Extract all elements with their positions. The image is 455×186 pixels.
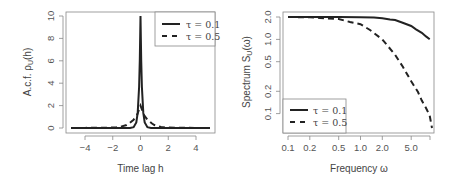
x-axis-label: Time lag h bbox=[117, 163, 163, 174]
x-axis bbox=[288, 136, 430, 140]
y-tick-label: 0.1 bbox=[262, 107, 273, 120]
y-tick-label: 6 bbox=[45, 58, 56, 63]
legend: τ = 0.1 τ = 0.5 bbox=[283, 99, 347, 133]
y-tick-label: 1.0 bbox=[262, 33, 273, 46]
y-tick-label: 2.0 bbox=[262, 10, 273, 23]
series-tau-0.1 bbox=[288, 17, 430, 39]
acf-plot: 0 2 4 6 8 10 A.c.f. ρU(h) −4 −2 0 2 4 Ti… bbox=[22, 11, 220, 174]
legend-label: τ = 0.1 bbox=[186, 19, 220, 30]
y-axis bbox=[59, 16, 63, 128]
y-tick-label: 10 bbox=[45, 11, 56, 22]
x-tick-label: 0.1 bbox=[281, 142, 294, 153]
x-tick-labels: 0.1 0.2 0.5 1.0 2.0 5.0 bbox=[281, 142, 417, 153]
y-tick-label: 8 bbox=[45, 36, 56, 41]
x-tick-label: −2 bbox=[107, 142, 118, 153]
x-tick-label: 2.0 bbox=[376, 142, 389, 153]
series-tau-0.5 bbox=[71, 106, 210, 128]
spectrum-plot: 0.1 0.2 0.5 1.0 2.0 Spectrum SU(ω) 0.1 0… bbox=[241, 10, 434, 174]
x-tick-label: 5.0 bbox=[405, 142, 418, 153]
x-tick-labels: −4 −2 0 2 4 bbox=[80, 142, 199, 153]
legend-label: τ = 0.1 bbox=[313, 105, 347, 116]
x-axis-label: Frequency ω bbox=[330, 163, 388, 174]
y-tick-labels: 0 2 4 6 8 10 bbox=[45, 11, 56, 131]
x-tick-label: 2 bbox=[166, 142, 171, 153]
legend-label: τ = 0.5 bbox=[186, 31, 220, 42]
y-tick-label: 4 bbox=[45, 81, 56, 86]
y-tick-label: 0.2 bbox=[262, 85, 273, 98]
y-tick-label: 0 bbox=[45, 125, 56, 130]
figure: 0 2 4 6 8 10 A.c.f. ρU(h) −4 −2 0 2 4 Ti… bbox=[0, 0, 455, 186]
x-tick-label: 0.5 bbox=[332, 142, 345, 153]
x-tick-label: 0 bbox=[138, 142, 143, 153]
legend-label: τ = 0.5 bbox=[313, 117, 347, 128]
y-tick-label: 0.5 bbox=[262, 55, 273, 68]
x-tick-label: 4 bbox=[193, 142, 198, 153]
legend: τ = 0.1 τ = 0.5 bbox=[155, 12, 220, 46]
x-axis bbox=[85, 136, 196, 140]
y-tick-label: 2 bbox=[45, 103, 56, 108]
y-axis-label: A.c.f. ρU(h) bbox=[22, 48, 34, 97]
y-tick-labels: 0.1 0.2 0.5 1.0 2.0 bbox=[262, 10, 273, 120]
y-axis bbox=[276, 17, 280, 114]
x-tick-label: 1.0 bbox=[354, 142, 367, 153]
x-tick-label: −4 bbox=[80, 142, 91, 153]
x-tick-label: 0.2 bbox=[303, 142, 316, 153]
y-axis-label: Spectrum SU(ω) bbox=[241, 36, 253, 108]
